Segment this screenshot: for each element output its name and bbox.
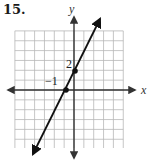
point-x-intercept: [63, 87, 69, 93]
point-y-intercept: [72, 68, 78, 74]
label-x-intercept: −1: [45, 74, 58, 88]
label-y-intercept: 2: [66, 57, 72, 71]
coordinate-graph: x y 2 −1: [0, 0, 153, 167]
x-axis-label: x: [140, 83, 147, 97]
graph-line: [33, 19, 100, 154]
y-axis-label: y: [68, 2, 75, 16]
